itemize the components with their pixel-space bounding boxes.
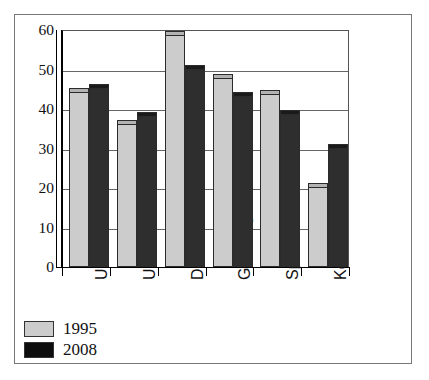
bar-body bbox=[280, 114, 300, 267]
bar-spain-2008 bbox=[280, 110, 300, 267]
bar-body bbox=[117, 124, 137, 267]
legend-item-1995: 1995 bbox=[24, 318, 97, 339]
bar-uk-2008 bbox=[89, 84, 109, 267]
bar-body bbox=[185, 69, 205, 268]
bar-body bbox=[69, 92, 89, 267]
bar-uk-1995 bbox=[69, 88, 89, 267]
bar-denmark-1995 bbox=[165, 31, 185, 267]
legend-swatch-light-gray bbox=[24, 321, 54, 337]
bar-germany-1995 bbox=[213, 74, 233, 267]
y-axis-tick-label: 30 bbox=[20, 141, 54, 157]
x-axis-tick-mark bbox=[253, 267, 254, 276]
x-axis-tick-mark bbox=[158, 267, 159, 276]
x-axis-tick-mark bbox=[62, 267, 63, 276]
y-axis-tick-label: 0 bbox=[20, 259, 54, 275]
bar-spain-1995 bbox=[260, 90, 280, 267]
bar-body bbox=[213, 78, 233, 267]
y-axis-tick-label: 50 bbox=[20, 62, 54, 78]
y-axis-tick-label: 10 bbox=[20, 220, 54, 236]
gridline bbox=[63, 71, 348, 72]
bar-korea-2008 bbox=[328, 144, 348, 268]
chart-legend: 19952008 bbox=[24, 318, 97, 360]
bar-chart: 0102030405060 UKUSDenmarkGermanySpainKor… bbox=[0, 0, 429, 380]
y-axis-tick-label: 20 bbox=[20, 180, 54, 196]
bar-body bbox=[233, 96, 253, 267]
x-axis-tick-mark bbox=[206, 267, 207, 276]
y-axis-tick-label: 40 bbox=[20, 101, 54, 117]
y-axis-tick-label: 60 bbox=[20, 22, 54, 38]
legend-item-2008: 2008 bbox=[24, 339, 97, 360]
bar-body bbox=[328, 148, 348, 268]
bar-body bbox=[137, 116, 157, 267]
bar-us-2008 bbox=[137, 112, 157, 267]
bar-germany-2008 bbox=[233, 92, 253, 267]
x-axis-tick-mark bbox=[110, 267, 111, 276]
bar-korea-1995 bbox=[308, 183, 328, 267]
bar-body bbox=[89, 88, 109, 267]
legend-swatch-black bbox=[24, 342, 54, 358]
bar-denmark-2008 bbox=[185, 65, 205, 268]
legend-label: 1995 bbox=[63, 320, 97, 337]
bar-body bbox=[260, 94, 280, 267]
bar-us-1995 bbox=[117, 120, 137, 267]
bar-body bbox=[308, 187, 328, 267]
bar-body bbox=[165, 35, 185, 267]
x-axis-tick-mark bbox=[349, 267, 350, 276]
x-axis-tick-mark bbox=[301, 267, 302, 276]
legend-label: 2008 bbox=[63, 341, 97, 358]
